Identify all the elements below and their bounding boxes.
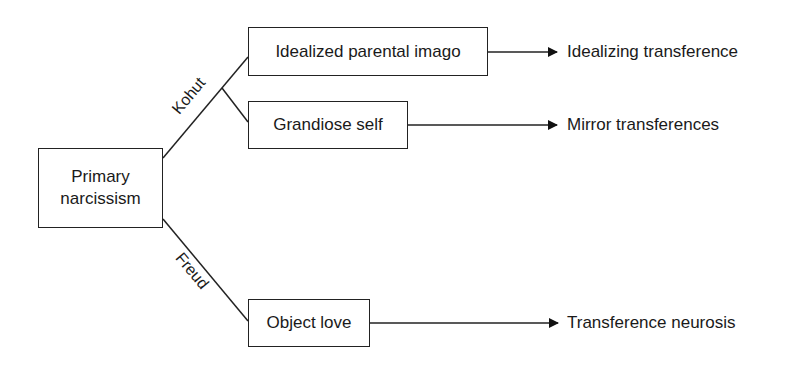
node-label-line2: narcissism xyxy=(60,188,140,210)
mirror-transferences-label: Mirror transferences xyxy=(567,115,719,135)
object-love-node: Object love xyxy=(248,299,370,347)
transference-neurosis-label: Transference neurosis xyxy=(567,313,736,333)
node-label: Grandiose self xyxy=(273,114,383,136)
primary-narcissism-node: Primary narcissism xyxy=(38,148,163,228)
idealizing-transference-label: Idealizing transference xyxy=(567,42,738,62)
idealized-parental-imago-node: Idealized parental imago xyxy=(248,27,488,76)
node-label-line1: Primary xyxy=(60,166,140,188)
node-label: Object love xyxy=(266,312,351,334)
node-label: Idealized parental imago xyxy=(275,41,460,63)
grandiose-self-node: Grandiose self xyxy=(248,101,408,149)
